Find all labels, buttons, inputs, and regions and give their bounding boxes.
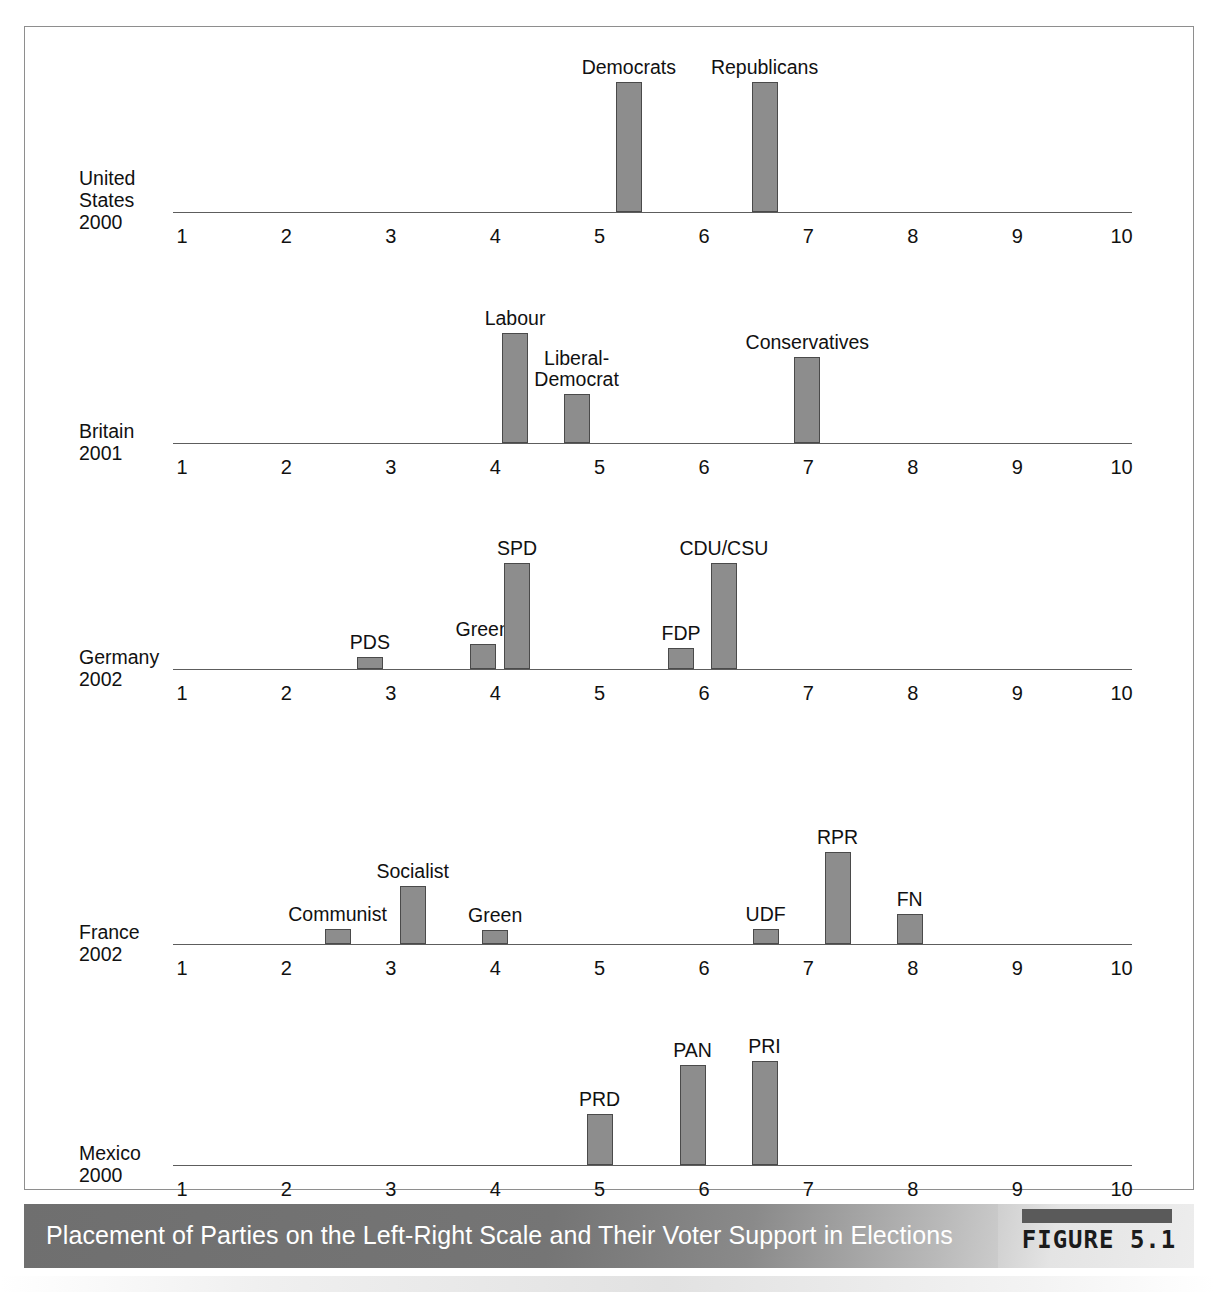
x-tick-label: 6 xyxy=(684,1178,724,1200)
x-tick-label: 1 xyxy=(162,456,202,478)
bar xyxy=(616,82,642,212)
badge-accent-bar xyxy=(1022,1209,1172,1223)
x-tick-label: 1 xyxy=(162,1178,202,1200)
bar-label: Conservatives xyxy=(677,332,937,353)
bar xyxy=(680,1065,706,1165)
x-tick-label: 10 xyxy=(1102,682,1142,704)
x-tick-label: 8 xyxy=(893,456,933,478)
figure-number-badge: FIGURE 5.1 xyxy=(998,1204,1194,1268)
x-tick-label: 4 xyxy=(475,1178,515,1200)
bar-label: Green xyxy=(365,905,625,926)
panel-row-label: Germany 2002 xyxy=(79,646,159,690)
x-tick-label: 6 xyxy=(684,225,724,247)
x-tick-label: 9 xyxy=(997,456,1037,478)
x-tick-label: 7 xyxy=(788,1178,828,1200)
x-tick-label: 5 xyxy=(580,1178,620,1200)
bar xyxy=(897,914,923,944)
x-tick-label: 4 xyxy=(475,225,515,247)
x-tick-label: 2 xyxy=(266,1178,306,1200)
x-tick-label: 10 xyxy=(1102,225,1142,247)
x-tick-label: 6 xyxy=(684,957,724,979)
x-tick-label: 1 xyxy=(162,225,202,247)
bar-label: Liberal- Democrat xyxy=(447,348,707,390)
bar xyxy=(753,929,779,944)
x-tick-label: 6 xyxy=(684,682,724,704)
x-tick-label: 3 xyxy=(371,225,411,247)
bar-label: Republicans xyxy=(635,57,895,78)
bar xyxy=(357,657,383,669)
bar-label: PRI xyxy=(635,1036,895,1057)
x-tick-label: 8 xyxy=(893,682,933,704)
bar xyxy=(794,357,820,443)
page-bottom-artifact xyxy=(0,1276,1214,1292)
x-tick-label: 2 xyxy=(266,682,306,704)
x-tick-label: 9 xyxy=(997,682,1037,704)
figure-number-label: FIGURE 5.1 xyxy=(1014,1226,1184,1254)
bar xyxy=(587,1114,613,1165)
bar xyxy=(668,648,694,669)
x-tick-label: 4 xyxy=(475,456,515,478)
x-tick-label: 2 xyxy=(266,225,306,247)
figure-caption-band: Placement of Parties on the Left-Right S… xyxy=(24,1204,1194,1268)
x-tick-label: 8 xyxy=(893,957,933,979)
bar xyxy=(482,930,508,944)
x-tick-label: 3 xyxy=(371,957,411,979)
bar-label: FDP xyxy=(551,623,811,644)
bar xyxy=(325,929,351,944)
panel-row-label: France 2002 xyxy=(79,921,140,965)
x-tick-label: 5 xyxy=(580,682,620,704)
x-tick-label: 10 xyxy=(1102,1178,1142,1200)
axis-line xyxy=(173,443,1132,444)
x-tick-label: 7 xyxy=(788,957,828,979)
x-tick-label: 8 xyxy=(893,1178,933,1200)
x-tick-label: 4 xyxy=(475,682,515,704)
x-tick-label: 2 xyxy=(266,456,306,478)
panel-row-label: United States 2000 xyxy=(79,167,135,233)
axis-line xyxy=(173,669,1132,670)
panel-row-label: Britain 2001 xyxy=(79,420,134,464)
bar xyxy=(564,394,590,443)
bar xyxy=(752,82,778,212)
bar xyxy=(711,563,737,669)
bar-label: Labour xyxy=(385,308,645,329)
x-tick-label: 5 xyxy=(580,225,620,247)
x-tick-label: 2 xyxy=(266,957,306,979)
x-tick-label: 3 xyxy=(371,1178,411,1200)
figure-caption-text: Placement of Parties on the Left-Right S… xyxy=(46,1221,953,1250)
bar xyxy=(504,563,530,669)
x-tick-label: 7 xyxy=(788,682,828,704)
axis-line xyxy=(173,944,1132,945)
x-tick-label: 10 xyxy=(1102,456,1142,478)
axis-line xyxy=(173,1165,1132,1166)
axis-line xyxy=(173,212,1132,213)
x-tick-label: 3 xyxy=(371,456,411,478)
x-tick-label: 3 xyxy=(371,682,411,704)
bar-label: Socialist xyxy=(283,861,543,882)
x-tick-label: 9 xyxy=(997,1178,1037,1200)
x-tick-label: 7 xyxy=(788,456,828,478)
x-tick-label: 1 xyxy=(162,957,202,979)
x-tick-label: 7 xyxy=(788,225,828,247)
x-tick-label: 1 xyxy=(162,682,202,704)
bar-label: FN xyxy=(780,889,1040,910)
x-tick-label: 5 xyxy=(580,456,620,478)
x-tick-label: 8 xyxy=(893,225,933,247)
x-tick-label: 10 xyxy=(1102,957,1142,979)
x-tick-label: 9 xyxy=(997,225,1037,247)
x-tick-label: 6 xyxy=(684,456,724,478)
x-tick-label: 9 xyxy=(997,957,1037,979)
panel-row-label: Mexico 2000 xyxy=(79,1142,141,1186)
bar-label: CDU/CSU xyxy=(594,538,854,559)
figure-frame: United States 200012345678910DemocratsRe… xyxy=(24,26,1194,1190)
bar xyxy=(752,1061,778,1165)
x-tick-label: 4 xyxy=(475,957,515,979)
bar-label: RPR xyxy=(708,827,968,848)
x-tick-label: 5 xyxy=(580,957,620,979)
bar xyxy=(470,644,496,669)
